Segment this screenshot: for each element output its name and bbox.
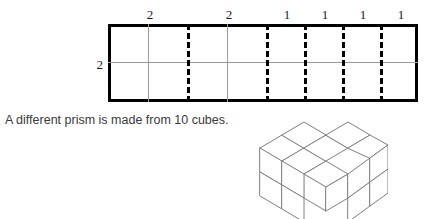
top-label-4: 1 (315, 8, 335, 21)
divider-dashed-5 (380, 24, 383, 102)
top-label-6: 1 (391, 8, 411, 21)
divider-dashed-3 (304, 24, 307, 102)
cube-model-svg (248, 110, 388, 219)
caption-text: A different prism is made from 10 cubes. (5, 112, 228, 128)
side-label-height: 2 (83, 58, 103, 71)
diagram-canvas: 2 2 1 1 1 1 2 A different prism is made … (0, 0, 439, 219)
divider-dashed-1 (187, 24, 190, 102)
top-label-3: 1 (277, 8, 297, 21)
gridline-horizontal-mid (108, 62, 418, 63)
gridline-vertical-1 (148, 24, 149, 102)
divider-dashed-2 (266, 24, 269, 102)
gridline-vertical-2 (227, 24, 228, 102)
top-label-1: 2 (140, 8, 160, 21)
cube-model-figure (248, 110, 388, 219)
top-label-5: 1 (353, 8, 373, 21)
divider-dashed-4 (342, 24, 345, 102)
top-label-2: 2 (219, 8, 239, 21)
prism-net-rectangle (108, 24, 418, 102)
